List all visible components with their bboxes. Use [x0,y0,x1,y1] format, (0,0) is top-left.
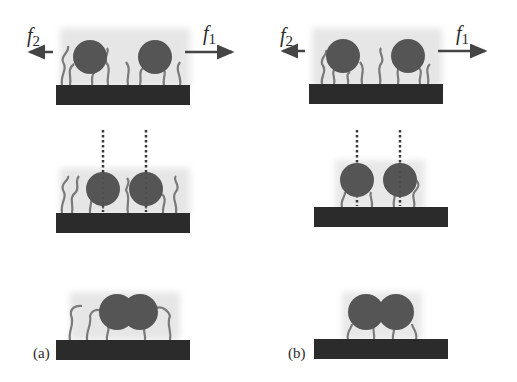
particle [340,163,374,197]
particle [378,294,414,330]
substrate [314,207,448,227]
force-label-f1: f1 [203,22,216,47]
panel-label-b: (b) [288,345,306,362]
particle [122,294,158,330]
panel-b: f2 f1 [280,22,485,362]
particle [326,39,360,73]
panel-label-a: (a) [33,345,50,362]
force-label-f1: f1 [456,22,469,47]
panel-b-stage-dimer: (b) [288,292,448,362]
panel-a-stage-dimer: (a) [33,292,190,362]
substrate [56,340,190,360]
figure-canvas: f2 f1 [0,0,517,382]
substrate [56,213,190,233]
panel-a-stage-separated: f2 f1 [27,22,232,105]
panel-a: f2 f1 [27,22,232,362]
force-label-f2: f2 [280,24,293,49]
particle [73,40,107,74]
brush-halo [60,168,190,216]
particle [138,40,172,74]
substrate [309,84,443,104]
panel-b-stage-tethered [314,130,448,227]
substrate [56,85,190,105]
particle [391,39,425,73]
force-label-f2: f2 [27,24,40,49]
panel-a-stage-tethered [56,130,190,233]
panel-b-stage-separated: f2 f1 [280,22,485,104]
substrate [314,339,448,359]
